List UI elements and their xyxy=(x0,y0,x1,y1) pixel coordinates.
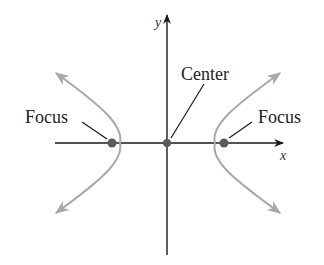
center-label: Center xyxy=(181,64,229,84)
focus-right-label: Focus xyxy=(258,107,301,127)
focus-left-leader xyxy=(82,122,107,139)
x-axis-label: x xyxy=(279,148,287,163)
focus-right-leader xyxy=(229,122,252,138)
y-axis-label: y xyxy=(153,15,162,30)
focus-left-point xyxy=(108,139,117,148)
center-point xyxy=(163,139,171,147)
center-leader xyxy=(171,84,204,138)
focus-left-label: Focus xyxy=(25,107,68,127)
hyperbola-diagram: x y Focus Center Focus xyxy=(0,0,324,265)
focus-right-point xyxy=(220,139,229,148)
